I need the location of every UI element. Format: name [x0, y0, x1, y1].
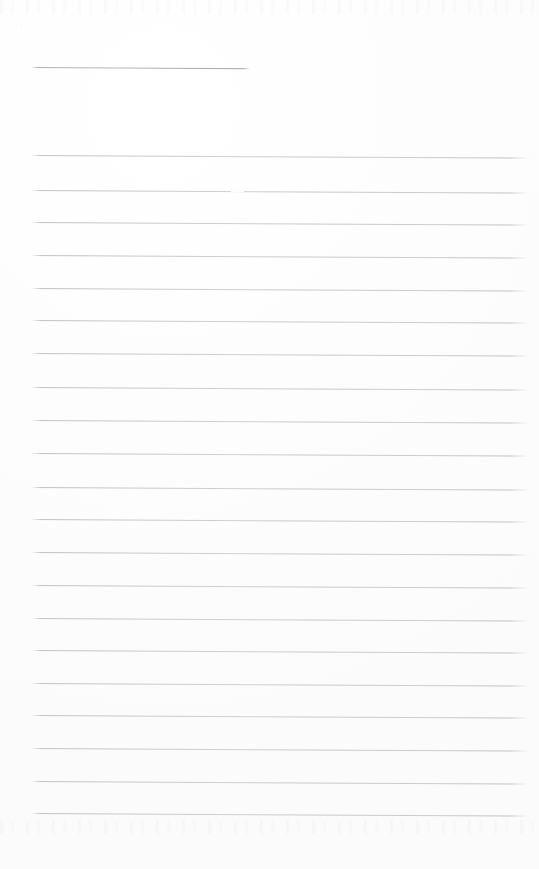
writing-area[interactable]	[31, 140, 529, 830]
header-rule	[31, 67, 250, 69]
scanned-page	[0, 0, 539, 869]
